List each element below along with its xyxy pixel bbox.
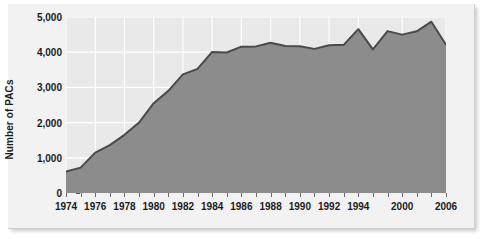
x-tick-mark [402, 193, 403, 197]
chart-figure: Number of PACs 5,0004,0003,0002,0001,000… [0, 0, 489, 239]
x-tick-mark [300, 193, 301, 197]
x-tick-mark [388, 193, 389, 197]
y-tick-label: 1,000 [16, 152, 62, 163]
y-axis-tick-labels: 5,0004,0003,0002,0001,0000 [12, 17, 62, 193]
x-tick-mark [66, 193, 67, 197]
x-tick-mark [446, 193, 447, 197]
x-tick-mark [227, 193, 228, 197]
x-tick-mark [81, 193, 82, 197]
x-tick-mark [154, 193, 155, 197]
y-tick-label: 0 [16, 188, 62, 199]
x-tick-mark [198, 193, 199, 197]
x-tick-label: 1982 [172, 201, 194, 212]
x-tick-label: 1978 [113, 201, 135, 212]
y-tick-label: 4,000 [16, 47, 62, 58]
x-axis-tick-labels: 1974197619781980198219841986198819901992… [66, 193, 446, 223]
y-tick-label: 3,000 [16, 82, 62, 93]
x-tick-label: 1984 [201, 201, 223, 212]
x-tick-mark [95, 193, 96, 197]
x-tick-label: 1992 [318, 201, 340, 212]
x-tick-label: 1974 [55, 201, 77, 212]
y-tick-label: 5,000 [16, 12, 62, 23]
x-tick-mark [344, 193, 345, 197]
x-tick-mark [241, 193, 242, 197]
x-tick-label: 1994 [347, 201, 369, 212]
x-tick-mark [417, 193, 418, 197]
x-tick-mark [431, 193, 432, 197]
area-chart-svg [66, 17, 446, 193]
y-tick-label: 2,000 [16, 117, 62, 128]
x-tick-label: 2000 [391, 201, 413, 212]
x-tick-mark [358, 193, 359, 197]
x-tick-mark [183, 193, 184, 197]
x-tick-mark [314, 193, 315, 197]
x-tick-mark [124, 193, 125, 197]
x-tick-mark [256, 193, 257, 197]
plot-area [66, 17, 446, 193]
x-tick-mark [212, 193, 213, 197]
x-tick-mark [285, 193, 286, 197]
x-tick-label: 1976 [84, 201, 106, 212]
x-tick-label: 2006 [435, 201, 457, 212]
x-tick-label: 1986 [230, 201, 252, 212]
x-tick-mark [373, 193, 374, 197]
x-tick-mark [271, 193, 272, 197]
x-tick-mark [329, 193, 330, 197]
x-tick-label: 1990 [289, 201, 311, 212]
x-tick-label: 1980 [143, 201, 165, 212]
x-tick-mark [110, 193, 111, 197]
x-tick-label: 1988 [259, 201, 281, 212]
x-tick-mark [168, 193, 169, 197]
x-tick-mark [139, 193, 140, 197]
